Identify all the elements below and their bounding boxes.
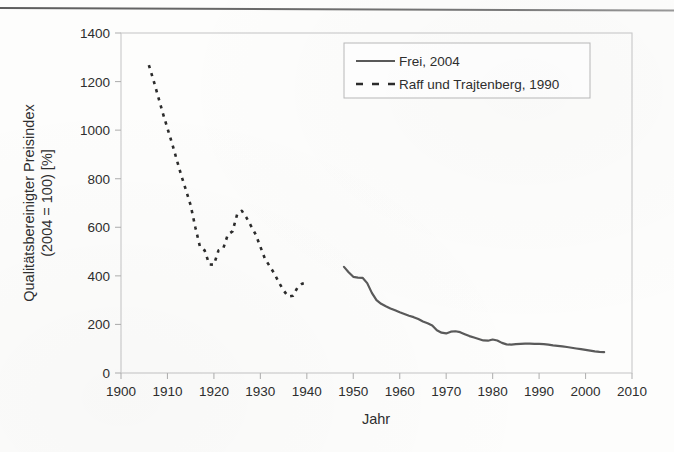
x-tick-label: 1950 (338, 384, 368, 399)
y-axis-title: Qualitätsbereinigter Preisindex (2004 = … (21, 104, 55, 302)
x-tick-label: 1970 (431, 384, 461, 399)
legend-entry-raff-trajtenberg-label: Raff und Trajtenberg, 1990 (399, 77, 559, 92)
x-axis-tick-labels: 1900191019201930194019501960197019801990… (106, 384, 647, 399)
x-tick-label: 1940 (292, 384, 322, 399)
x-tick-label: 1960 (385, 384, 415, 399)
x-tick-label: 1900 (106, 384, 136, 399)
y-axis-title-line-2: (2004 = 100) [%] (39, 149, 55, 257)
y-tick-label: 200 (87, 317, 110, 332)
data-series-layer (149, 65, 604, 352)
y-axis-tick-labels: 0200400600800100012001400 (80, 26, 110, 381)
y-tick-label: 600 (87, 220, 110, 235)
x-axis-title: Jahr (362, 411, 390, 427)
y-tick-label: 1200 (80, 75, 110, 90)
x-tick-label: 2010 (617, 384, 647, 399)
series-line (344, 267, 604, 352)
price-index-line-chart: 0200400600800100012001400 19001910192019… (0, 0, 674, 452)
x-tick-label: 1920 (199, 384, 229, 399)
chart-legend: Frei, 2004 Raff und Trajtenberg, 1990 (344, 43, 590, 98)
y-tick-label: 1000 (80, 123, 110, 138)
y-tick-label: 0 (102, 366, 110, 381)
y-tick-label: 400 (87, 269, 110, 284)
x-axis-ticks (121, 373, 632, 379)
x-tick-label: 1980 (478, 384, 508, 399)
x-tick-label: 1910 (152, 384, 182, 399)
y-tick-label: 1400 (80, 26, 110, 41)
legend-entry-frei-label: Frei, 2004 (399, 54, 460, 69)
x-tick-label: 1990 (524, 384, 554, 399)
x-tick-label: 2000 (571, 384, 601, 399)
scanned-page: 0200400600800100012001400 19001910192019… (0, 0, 674, 452)
y-tick-label: 800 (87, 172, 110, 187)
y-axis-title-line-1: Qualitätsbereinigter Preisindex (21, 104, 37, 302)
x-tick-label: 1930 (245, 384, 275, 399)
y-axis-ticks (115, 33, 121, 373)
series-line (149, 65, 307, 296)
